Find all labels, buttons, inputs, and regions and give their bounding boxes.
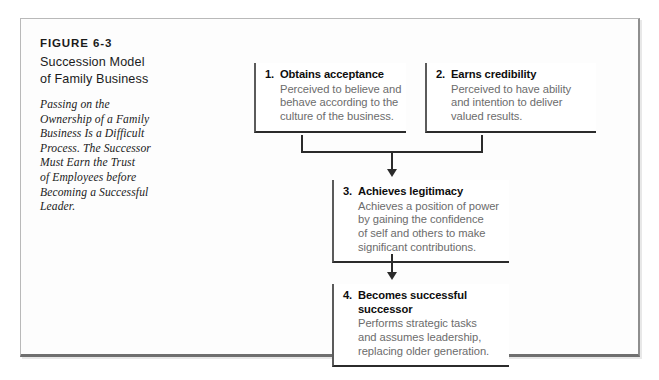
flow-step-1-heading-text: Obtains acceptance — [280, 68, 384, 80]
flow-step-3-body-line: by gaining the confidence — [358, 213, 501, 227]
flow-step-box-3: 3. Achieves legitimacy Achieves a positi… — [332, 180, 509, 263]
arrowhead-to-box-4-icon — [387, 272, 397, 280]
flow-step-3-heading-text: Achieves legitimacy — [358, 185, 463, 197]
flow-step-4-body-line: Performs strategic tasks — [358, 317, 501, 331]
figure-number-label: FIGURE 6-3 — [40, 37, 190, 49]
figure-caption-block: FIGURE 6-3 Succession Model of Family Bu… — [40, 37, 190, 215]
flow-step-1-body: Perceived to believe and behave accordin… — [265, 83, 398, 124]
flow-step-box-4: 4. Becomes successful successor Performs… — [332, 284, 509, 367]
flow-step-1-body-line: behave according to the — [280, 96, 398, 110]
figure-description-line: Becoming a Successful — [40, 186, 190, 201]
figure-frame: FIGURE 6-3 Succession Model of Family Bu… — [20, 18, 640, 357]
flow-step-4-heading: 4. Becomes successful successor — [343, 289, 501, 316]
flow-step-4-heading-line-2: successor — [358, 303, 501, 317]
figure-title-line-2: of Family Business — [40, 71, 190, 88]
flow-step-2-body-line: valued results. — [451, 110, 588, 124]
arrowhead-to-box-3-icon — [387, 169, 397, 177]
flow-step-4-body: Performs strategic tasks and assumes lea… — [343, 317, 501, 358]
flow-step-2-heading-text: Earns credibility — [451, 68, 536, 80]
flow-step-3-body-line: of self and others to make — [358, 227, 501, 241]
figure-description-line: Ownership of a Family — [40, 113, 190, 128]
flow-step-1-body-line: culture of the business. — [280, 110, 398, 124]
flow-step-4-heading-line-1: Becomes successful — [358, 289, 467, 301]
flow-step-2-body-line: and intention to deliver — [451, 96, 588, 110]
flow-step-2-body: Perceived to have ability and intention … — [436, 83, 588, 124]
figure-description-line: Must Earn the Trust — [40, 156, 190, 171]
flow-step-1-number: 1. — [265, 68, 274, 82]
flow-step-box-1: 1. Obtains acceptance Perceived to belie… — [254, 63, 406, 133]
flow-step-1-heading: 1. Obtains acceptance — [265, 68, 398, 82]
flow-step-3-body-line: significant contributions. — [358, 241, 501, 255]
flow-step-3-heading: 3. Achieves legitimacy — [343, 185, 501, 199]
flow-step-box-2: 2. Earns credibility Perceived to have a… — [425, 63, 596, 133]
flow-step-1-body-line: Perceived to believe and — [280, 83, 398, 97]
figure-description-line: Leader. — [40, 200, 190, 215]
figure-title-line-1: Succession Model — [40, 54, 190, 71]
flow-step-2-heading: 2. Earns credibility — [436, 68, 588, 82]
figure-description: Passing on the Ownership of a Family Bus… — [40, 98, 190, 215]
figure-description-line: of Employees before — [40, 171, 190, 186]
figure-description-line: Passing on the — [40, 98, 190, 113]
figure-title: Succession Model of Family Business — [40, 54, 190, 87]
flow-step-4-body-line: replacing older generation. — [358, 345, 501, 359]
flow-step-3-body-line: Achieves a position of power — [358, 200, 501, 214]
flow-step-3-number: 3. — [343, 185, 352, 199]
flow-step-3-body: Achieves a position of power by gaining … — [343, 200, 501, 255]
flow-step-2-number: 2. — [436, 68, 445, 82]
flow-step-4-body-line: and assumes leadership, — [358, 331, 501, 345]
figure-description-line: Process. The Successor — [40, 142, 190, 157]
flow-step-4-number: 4. — [343, 289, 352, 303]
flow-step-2-body-line: Perceived to have ability — [451, 83, 588, 97]
figure-description-line: Business Is a Difficult — [40, 127, 190, 142]
